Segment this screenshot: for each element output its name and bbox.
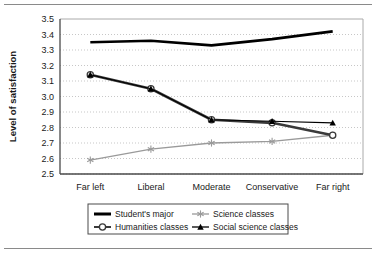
legend-entry-label: Student's major: [115, 209, 174, 219]
legend-entry-label: Science classes: [213, 209, 274, 219]
x-axis-category-label: Liberal: [137, 182, 164, 192]
y-axis-title: Level of satisfaction: [7, 51, 18, 143]
series-line: [90, 75, 332, 135]
legend-entry-label: Humanities classes: [115, 222, 188, 232]
x-axis-category-label: Moderate: [192, 182, 230, 192]
chart-svg: 3.53.43.33.23.13.02.92.82.72.62.5Level o…: [0, 8, 376, 246]
y-axis-tick-label: 2.9: [41, 107, 54, 117]
y-axis-tick-label: 3.1: [41, 76, 54, 86]
y-axis-tick-label: 3.0: [41, 92, 54, 102]
bottom-divider-rule: [4, 248, 372, 249]
y-axis-tick-label: 2.7: [41, 138, 54, 148]
series-science-classes: [87, 132, 336, 164]
series-humanities-classes: [87, 72, 336, 139]
legend-entry-label: Social science classes: [213, 222, 298, 232]
y-axis-tick-label: 3.3: [41, 45, 54, 55]
series-line: [90, 31, 332, 45]
y-axis-tick-label: 3.5: [41, 14, 54, 24]
y-axis-tick-label: 2.6: [41, 154, 54, 164]
series-student-s-major: [90, 31, 332, 45]
y-axis-tick-label: 3.4: [41, 30, 54, 40]
data-point-circle-marker: [330, 132, 336, 138]
y-axis-tick-label: 2.8: [41, 123, 54, 133]
top-divider-rule: [4, 4, 372, 5]
x-axis-category-label: Far left: [76, 182, 105, 192]
line-chart: 3.53.43.33.23.13.02.92.82.72.62.5Level o…: [0, 8, 376, 246]
x-axis-category-label: Conservative: [246, 182, 299, 192]
data-point-circle-marker: [99, 224, 105, 230]
y-axis-tick-label: 2.5: [41, 169, 54, 179]
series-line: [90, 135, 332, 160]
y-axis-tick-label: 3.2: [41, 61, 54, 71]
figure-container: 3.53.43.33.23.13.02.92.82.72.62.5Level o…: [0, 0, 376, 254]
series-social-science-classes: [87, 72, 336, 126]
x-axis-category-label: Far right: [316, 182, 350, 192]
